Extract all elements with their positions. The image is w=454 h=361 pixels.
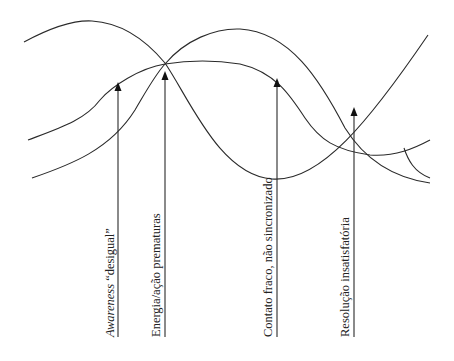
arrow-1-label-rest: “desigual”: [103, 228, 117, 284]
arrow-3-label-text: Contato fraco, não sincronizado: [261, 177, 275, 337]
arrow-2-label: Energia/ação prematuras: [149, 213, 164, 337]
arrow-4-label: Resolução insatisfatória: [338, 217, 353, 337]
arrow-1-label: Awareness “desigual”: [103, 228, 118, 337]
arrow-4-label-text: Resolução insatisfatória: [338, 217, 352, 337]
curve-2: [28, 61, 430, 155]
diagram-canvas: [0, 0, 454, 361]
arrow-3-label: Contato fraco, não sincronizado: [261, 177, 276, 337]
curve-branch: [404, 148, 430, 178]
arrow-1-label-italic: Awareness: [103, 284, 117, 337]
diagram: Awareness “desigual” Energia/ação premat…: [0, 0, 454, 361]
arrow-2-label-text: Energia/ação prematuras: [149, 213, 163, 337]
